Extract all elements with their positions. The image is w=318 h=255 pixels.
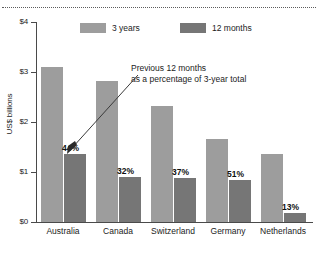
y-axis-title: US$ billions xyxy=(6,84,14,144)
y-tick-1 xyxy=(31,172,37,173)
y-tick-0 xyxy=(31,222,37,223)
legend-swatch-icon-12-months xyxy=(180,23,206,33)
legend: 3 years 12 months xyxy=(80,22,260,36)
bar-germany-12-months xyxy=(229,180,251,222)
category-label-netherlands: Netherlands xyxy=(251,226,315,236)
bar-germany-3-years xyxy=(206,139,228,222)
y-tick-2 xyxy=(31,122,37,123)
bar-australia-12-months xyxy=(64,154,86,222)
annotation-line-1: Previous 12 months xyxy=(131,63,281,74)
annotation-arrow-icon xyxy=(58,72,142,158)
data-label-switzerland: 37% xyxy=(172,168,189,177)
legend-swatch-icon-3-years xyxy=(80,23,106,33)
bar-chart: $4 $3 $2 $1 $0 US$ billions 3 years 12 m… xyxy=(0,0,318,255)
annotation-line-2: as a percentage of 3-year total xyxy=(131,74,281,85)
top-divider xyxy=(2,7,316,8)
bar-netherlands-12-months xyxy=(284,213,306,222)
data-label-netherlands: 13% xyxy=(282,203,299,212)
bar-switzerland-12-months xyxy=(174,178,196,222)
y-tick-label-4: $4 xyxy=(0,18,28,26)
legend-label-12-months: 12 months xyxy=(212,23,252,33)
y-tick-label-3: $3 xyxy=(0,68,28,76)
annotation-callout: Previous 12 months as a percentage of 3-… xyxy=(131,63,281,84)
bar-switzerland-3-years xyxy=(151,106,173,222)
y-tick-label-1: $1 xyxy=(0,168,28,176)
y-tick-label-0: $0 xyxy=(0,218,28,226)
data-label-canada: 32% xyxy=(117,167,134,176)
y-tick-4 xyxy=(31,22,37,23)
x-axis-line xyxy=(36,222,313,223)
bar-netherlands-3-years xyxy=(261,154,283,222)
data-label-germany: 51% xyxy=(227,170,244,179)
legend-label-3-years: 3 years xyxy=(112,23,140,33)
y-tick-3 xyxy=(31,72,37,73)
bar-canada-12-months xyxy=(119,177,141,222)
